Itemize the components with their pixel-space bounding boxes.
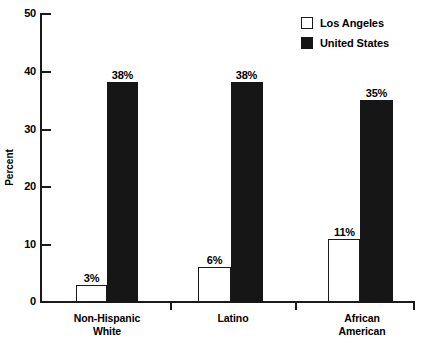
y-axis-tick-50 xyxy=(42,13,51,15)
y-axis-label-0: 0 xyxy=(0,296,36,307)
legend-label-united-states: United States xyxy=(320,37,389,49)
y-axis-title: Percent xyxy=(4,138,15,198)
legend-item-los-angeles: Los Angeles xyxy=(301,16,389,30)
bar-value-united-states-non-hispanic-white: 38% xyxy=(103,69,142,81)
bar-value-united-states-latino: 38% xyxy=(227,69,266,81)
y-axis-label-50: 50 xyxy=(0,8,36,19)
bar-value-los-angeles-african-american: 11% xyxy=(324,226,365,238)
y-axis-label-40: 40 xyxy=(0,66,36,77)
y-axis-tick-20 xyxy=(42,186,51,188)
legend: Los Angeles United States xyxy=(301,16,389,56)
x-axis-tick-1 xyxy=(170,303,172,310)
x-axis-category-african-american-line2: American xyxy=(305,325,419,338)
y-axis-tick-10 xyxy=(42,244,51,246)
legend-label-los-angeles: Los Angeles xyxy=(320,17,384,29)
legend-item-united-states: United States xyxy=(301,36,389,50)
y-axis-label-30: 30 xyxy=(0,124,36,135)
bar-united-states-non-hispanic-white xyxy=(107,82,138,302)
x-axis-category-non-hispanic-white: Non-Hispanic White xyxy=(50,312,164,338)
bar-los-angeles-latino xyxy=(198,267,231,302)
bar-los-angeles-african-american xyxy=(328,239,360,302)
y-axis-tick-30 xyxy=(42,129,51,131)
y-axis-line xyxy=(40,13,42,303)
x-axis-category-latino-line1: Latino xyxy=(218,312,249,324)
legend-swatch-white-square-icon xyxy=(301,17,313,29)
bar-los-angeles-non-hispanic-white xyxy=(76,285,107,302)
bar-value-los-angeles-latino: 6% xyxy=(195,254,234,266)
x-axis-category-african-american: African American xyxy=(305,312,419,338)
x-axis-category-latino: Latino xyxy=(176,312,290,325)
legend-swatch-black-square-icon xyxy=(301,37,313,49)
bar-united-states-latino xyxy=(231,82,263,302)
x-axis-category-african-american-line1: African xyxy=(344,312,379,324)
bar-chart: 50 40 30 20 10 0 Percent 3% 38% Non-Hisp… xyxy=(0,0,425,346)
bar-united-states-african-american xyxy=(360,100,393,302)
y-axis-tick-40 xyxy=(42,71,51,73)
x-axis-tick-3 xyxy=(413,303,415,310)
bar-value-los-angeles-non-hispanic-white: 3% xyxy=(72,272,111,284)
bar-value-united-states-african-american: 35% xyxy=(357,87,396,99)
x-axis-category-non-hispanic-white-line1: Non-Hispanic xyxy=(74,312,140,324)
x-axis-tick-2 xyxy=(295,303,297,310)
y-axis-label-10: 10 xyxy=(0,239,36,250)
x-axis-category-non-hispanic-white-line2: White xyxy=(50,325,164,338)
